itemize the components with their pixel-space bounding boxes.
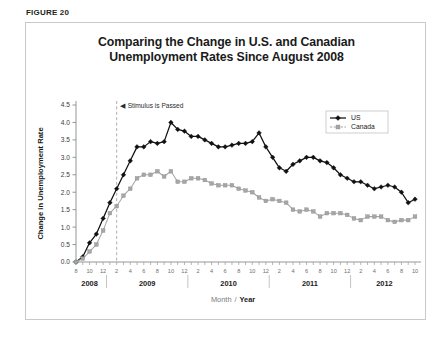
- data-point-marker: [406, 218, 410, 222]
- data-point-marker: [108, 211, 112, 215]
- x-tick-label: 4: [373, 268, 376, 274]
- data-point-marker: [101, 229, 105, 233]
- data-point-marker: [169, 169, 173, 173]
- legend-label-canada: Canada: [351, 123, 375, 130]
- data-point-marker: [336, 125, 340, 129]
- data-point-marker: [135, 176, 139, 180]
- y-tick-label: 3.0: [61, 154, 70, 161]
- data-point-marker: [128, 187, 132, 191]
- data-point-marker: [162, 139, 167, 144]
- data-point-marker: [155, 141, 160, 146]
- data-point-marker: [332, 211, 336, 215]
- x-tick-label: 8: [74, 268, 77, 274]
- y-tick-label: 4.5: [61, 101, 70, 108]
- data-point-marker: [413, 197, 418, 202]
- data-point-marker: [203, 178, 207, 182]
- x-tick-label: 10: [249, 268, 255, 274]
- data-point-marker: [278, 199, 282, 203]
- data-point-marker: [183, 180, 187, 184]
- data-point-marker: [81, 257, 85, 261]
- x-tick-label: 8: [400, 268, 403, 274]
- data-point-marker: [413, 215, 417, 219]
- x-tick-label: 8: [156, 268, 159, 274]
- x-tick-label: 8: [319, 268, 322, 274]
- data-point-marker: [223, 183, 227, 187]
- x-tick-label: 10: [86, 268, 92, 274]
- data-point-marker: [264, 199, 268, 203]
- data-point-marker: [128, 158, 133, 163]
- data-point-marker: [149, 173, 153, 177]
- data-point-marker: [345, 213, 349, 217]
- x-tick-label: 2: [196, 268, 199, 274]
- x-tick-label: 6: [142, 268, 145, 274]
- data-point-marker: [250, 190, 254, 194]
- x-tick-label: 2: [115, 268, 118, 274]
- x-axis-title: Month/Year: [211, 295, 255, 304]
- data-point-marker: [162, 175, 166, 179]
- x-tick-label: 6: [224, 268, 227, 274]
- y-tick-label: 3.5: [61, 136, 70, 143]
- x-tick-label: 8: [237, 268, 240, 274]
- data-point-marker: [108, 200, 113, 205]
- data-point-marker: [291, 208, 295, 212]
- data-point-marker: [298, 210, 302, 214]
- data-point-marker: [318, 215, 322, 219]
- x-tick-label: 2: [359, 268, 362, 274]
- data-point-marker: [365, 183, 370, 188]
- x-year-label: 2010: [220, 279, 236, 288]
- data-point-marker: [121, 172, 126, 177]
- data-point-marker: [311, 210, 315, 214]
- data-point-marker: [223, 145, 228, 150]
- data-point-marker: [297, 158, 302, 163]
- x-tick-label: 12: [344, 268, 350, 274]
- data-point-marker: [230, 183, 234, 187]
- x-tick-label: 6: [386, 268, 389, 274]
- data-point-marker: [176, 180, 180, 184]
- x-year-label: 2008: [81, 279, 97, 288]
- data-point-marker: [311, 155, 316, 160]
- data-point-marker: [122, 194, 126, 198]
- data-point-marker: [135, 145, 140, 150]
- stimulus-arrow-icon: ◀: [120, 102, 126, 109]
- data-point-marker: [372, 186, 377, 191]
- data-point-marker: [379, 215, 383, 219]
- data-point-marker: [101, 216, 106, 221]
- y-tick-label: 0.5: [61, 241, 70, 248]
- series-line: [76, 171, 415, 262]
- data-point-marker: [345, 176, 350, 181]
- figure-box: Comparing the Change in U.S. and Canadia…: [25, 22, 426, 320]
- x-year-label: 2009: [139, 279, 155, 288]
- data-point-marker: [305, 208, 309, 212]
- data-point-marker: [271, 197, 275, 201]
- data-point-marker: [244, 189, 248, 193]
- data-point-marker: [88, 250, 92, 254]
- stimulus-annotation-label: Stimulus is Passed: [128, 102, 184, 109]
- data-point-marker: [189, 176, 193, 180]
- y-tick-label: 0.0: [61, 258, 70, 265]
- data-point-marker: [202, 138, 207, 143]
- data-point-marker: [114, 186, 119, 191]
- unemployment-change-line-chart: 0.00.51.01.52.02.53.03.54.04.5Change in …: [26, 23, 427, 321]
- data-point-marker: [216, 145, 221, 150]
- x-axis-title-year: Year: [240, 295, 256, 304]
- x-tick-label: 6: [305, 268, 308, 274]
- x-tick-label: 10: [331, 268, 337, 274]
- y-tick-label: 2.0: [61, 189, 70, 196]
- figure-label: FIGURE 20: [26, 8, 69, 17]
- data-point-marker: [339, 211, 343, 215]
- x-axis-title-separator: /: [234, 295, 237, 304]
- x-tick-label: 4: [291, 268, 294, 274]
- legend-label-us: US: [351, 114, 361, 121]
- data-point-marker: [318, 158, 323, 163]
- x-tick-label: 2: [278, 268, 281, 274]
- data-point-marker: [379, 185, 384, 190]
- data-point-marker: [358, 179, 363, 184]
- chart-legend: USCanada: [326, 111, 388, 133]
- x-year-label: 2011: [302, 279, 318, 288]
- y-tick-label: 1.5: [61, 206, 70, 213]
- y-tick-label: 1.0: [61, 224, 70, 231]
- x-tick-label: 4: [210, 268, 213, 274]
- data-point-marker: [366, 215, 370, 219]
- data-point-marker: [386, 218, 390, 222]
- x-tick-label: 12: [181, 268, 187, 274]
